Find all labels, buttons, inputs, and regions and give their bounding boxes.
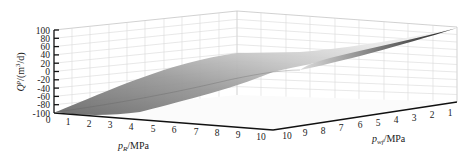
svg-text:pwf/MPa: pwf/MPa [371, 133, 406, 146]
svg-text:pR/MPa: pR/MPa [117, 140, 150, 153]
y-tick: 3 [412, 113, 417, 123]
x-tick: 3 [108, 120, 113, 130]
y-tick: 1 [448, 108, 453, 118]
x-tick: 4 [129, 122, 134, 132]
y-tick: 5 [376, 118, 381, 128]
x-tick: 5 [151, 124, 156, 134]
y-tick: 7 [339, 123, 344, 133]
x-tick: 9 [236, 130, 241, 140]
y-tick: 4 [394, 115, 399, 125]
x-tick: 6 [172, 125, 177, 135]
y-tick: 10 [282, 131, 292, 141]
x-tick: 8 [215, 128, 220, 138]
z-axis-label: Qp/(m3/d) [14, 52, 27, 91]
y-tick: 9 [303, 128, 308, 138]
z-axis-ticks: 100 80 60 40 20 0 -20 -40 -60 -80 -100 [33, 26, 59, 119]
x-tick: 7 [194, 127, 199, 137]
surface-chart: 100 80 60 40 20 0 -20 -40 -60 -80 -100 0… [0, 0, 474, 158]
x-tick: 1 [66, 117, 71, 127]
x-axis-label: pR/MPa [117, 140, 150, 153]
x-tick: 2 [87, 119, 92, 129]
x-tick: 0 [46, 115, 51, 125]
svg-text:Qp/(m3/d): Qp/(m3/d) [14, 52, 27, 91]
y-axis-label: pwf/MPa [371, 133, 406, 146]
y-tick: 8 [321, 126, 326, 136]
y-tick: 6 [358, 120, 363, 130]
x-tick: 10 [256, 132, 266, 142]
y-tick: 2 [430, 110, 435, 120]
